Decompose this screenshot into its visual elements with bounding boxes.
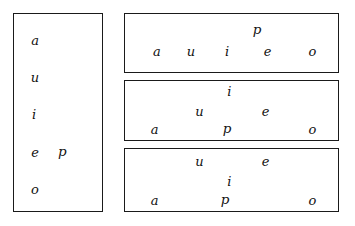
phoneme-a: a xyxy=(31,33,39,46)
phoneme-p: p xyxy=(58,145,67,159)
phoneme-i: i xyxy=(32,108,36,121)
phoneme-e: e xyxy=(262,155,270,168)
phoneme-a: a xyxy=(151,123,159,136)
phoneme-i: i xyxy=(227,175,231,188)
phoneme-u: u xyxy=(195,155,204,168)
phoneme-o: o xyxy=(308,44,316,57)
panel-vertical: auiepo xyxy=(13,13,103,212)
phoneme-e: e xyxy=(31,145,39,158)
phoneme-p: p xyxy=(221,194,230,208)
phoneme-i: i xyxy=(227,85,231,98)
phoneme-p: p xyxy=(223,123,232,137)
phoneme-u: u xyxy=(187,44,196,57)
phoneme-a: a xyxy=(151,194,159,207)
phoneme-u: u xyxy=(31,71,40,84)
figure-canvas: auiepo pauieo iueapo ueiapo xyxy=(0,0,355,226)
phoneme-o: o xyxy=(308,123,316,136)
panel-row-1: pauieo xyxy=(124,13,339,73)
panel-row-3: ueiapo xyxy=(124,148,339,212)
phoneme-i: i xyxy=(225,44,229,57)
phoneme-o: o xyxy=(308,194,316,207)
phoneme-a: a xyxy=(153,44,161,57)
phoneme-e: e xyxy=(262,104,270,117)
phoneme-o: o xyxy=(31,183,39,196)
phoneme-u: u xyxy=(195,104,204,117)
panel-row-2: iueapo xyxy=(124,80,339,141)
phoneme-p: p xyxy=(253,23,262,37)
phoneme-e: e xyxy=(264,44,272,57)
